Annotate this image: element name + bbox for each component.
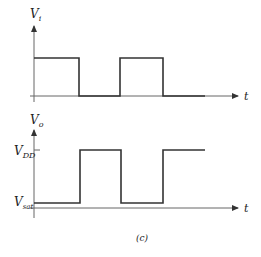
input-plot: Vi t <box>30 7 249 103</box>
vi-t-label: t <box>244 90 249 103</box>
vdd-sub: DD <box>22 151 36 160</box>
output-plot: Vo VDD Vsat t <box>14 113 249 218</box>
svg-text:VDD: VDD <box>14 144 36 160</box>
waveform-diagram: Vi t Vo VDD Vsat t (c) <box>0 0 261 257</box>
vi-sub: i <box>39 14 42 23</box>
vo-t-label: t <box>244 202 249 215</box>
svg-text:Vo: Vo <box>30 113 44 129</box>
vi-waveform <box>34 58 205 96</box>
vo-sub: o <box>39 120 44 129</box>
vsat-sub: sat <box>23 203 34 211</box>
svg-text:Vi: Vi <box>30 7 42 23</box>
svg-text:Vsat: Vsat <box>14 195 33 211</box>
figure-caption: (c) <box>136 233 149 243</box>
vo-waveform <box>34 150 205 203</box>
